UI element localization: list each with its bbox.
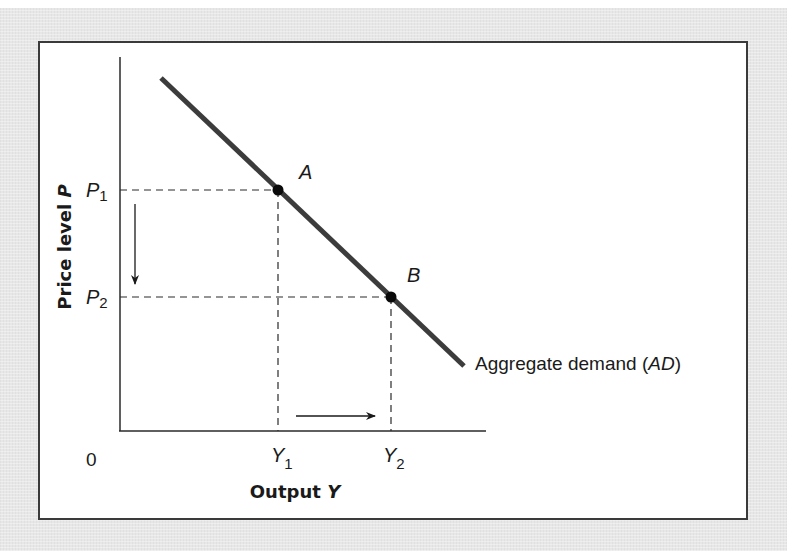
y1-tick-label: Y1 [271, 444, 293, 472]
p2-tick-label: P2 [86, 286, 108, 311]
point-a-marker [273, 185, 284, 196]
aggregate-demand-curve [161, 78, 464, 366]
aggregate-demand-diagram: A B P1 P2 Y1 Y2 0 Output Y Price level P… [0, 0, 787, 551]
point-a-label: A [298, 161, 312, 183]
point-b-label: B [407, 264, 420, 286]
x-axis-title: Output Y [250, 481, 342, 502]
aggregate-demand-label: Aggregate demand (AD) [475, 353, 681, 374]
y2-tick-label: Y2 [383, 444, 405, 472]
point-b-marker [386, 292, 397, 303]
y-axis-title: Price level P [54, 184, 75, 309]
p1-tick-label: P1 [86, 179, 108, 204]
origin-label: 0 [86, 449, 97, 470]
